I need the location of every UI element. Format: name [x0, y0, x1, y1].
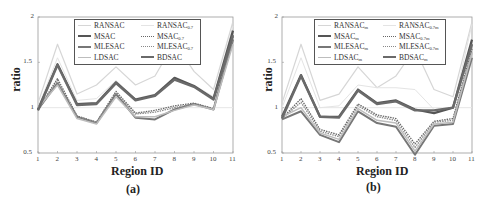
legend-swatch [318, 57, 331, 58]
x-tick-label: 11 [229, 155, 236, 163]
x-tick-label: 1 [36, 155, 40, 163]
legend-swatch [78, 25, 91, 26]
x-tick-label: 3 [318, 155, 322, 163]
x-tick-label: 4 [95, 155, 99, 163]
y-tick-label: 1.5 [267, 57, 276, 65]
legend-swatch [318, 35, 331, 37]
y-tick-label: 0.5 [267, 148, 276, 156]
legend-label: MSAC0.7m [399, 32, 429, 41]
legend-item: MLESAC0.7 [141, 42, 193, 51]
panel-caption: (b) [366, 180, 381, 195]
x-axis-label: Region ID [111, 164, 163, 179]
legend-item: RANSAC [78, 21, 124, 30]
x-tick-label: 6 [134, 155, 138, 163]
legend-swatch [141, 25, 154, 26]
legend-swatch [78, 46, 91, 48]
legend-label: MLESAC0.7m [399, 42, 439, 51]
legend-label: MSACm [334, 32, 359, 41]
legend-label: MLESAC [94, 42, 124, 51]
legend-item: RANSAC0.7m [383, 21, 439, 30]
legend-item: BDSACm [383, 53, 428, 62]
legend-label: LDSACm [334, 53, 362, 62]
x-tick-label: 8 [413, 155, 417, 163]
legend-item: BDSAC [141, 53, 182, 62]
chart-panel-b: ratio Region ID (b) RANSACmRANSAC0.7mMSA… [246, 0, 492, 200]
x-tick-label: 9 [432, 155, 436, 163]
x-tick-label: 2 [299, 155, 303, 163]
legend-item: LDSACm [318, 53, 362, 62]
legend-swatch [141, 46, 154, 47]
y-tick-label: 0.5 [23, 148, 32, 156]
legend-swatch [318, 25, 331, 26]
legend-item: LDSAC [78, 53, 119, 62]
legend-item: MLESAC0.7m [383, 42, 439, 51]
x-tick-label: 3 [75, 155, 79, 163]
panel-caption: (a) [126, 182, 140, 197]
legend-swatch [383, 46, 396, 47]
y-axis-label: ratio [261, 67, 276, 92]
legend: RANSACRANSAC0.7MSACMSAC0.7MLESACMLESAC0.… [74, 19, 201, 65]
legend-item: RANSAC0.7 [141, 21, 193, 30]
series-line [282, 51, 472, 147]
legend: RANSACmRANSAC0.7mMSACmMSAC0.7mMLESACmMLE… [314, 19, 446, 65]
legend-label: RANSACm [334, 21, 368, 30]
legend-item: MLESAC [78, 42, 124, 51]
legend-item: MLESACm [318, 42, 368, 51]
legend-swatch [141, 36, 154, 37]
x-tick-label: 7 [394, 155, 398, 163]
legend-swatch [318, 46, 331, 48]
legend-item: MSAC0.7m [383, 32, 429, 41]
x-tick-label: 4 [337, 155, 341, 163]
x-tick-label: 9 [192, 155, 196, 163]
y-tick-label: 1 [274, 103, 278, 111]
legend-label: RANSAC [94, 21, 124, 30]
legend-label: MSAC [94, 32, 115, 41]
y-tick-label: 1 [30, 103, 34, 111]
x-axis-label: Region ID [356, 164, 408, 179]
x-tick-label: 5 [114, 155, 118, 163]
legend-swatch [78, 57, 91, 58]
x-tick-label: 10 [449, 155, 456, 163]
y-axis-label: ratio [9, 67, 24, 92]
y-tick-label: 2 [30, 12, 34, 20]
x-tick-label: 6 [375, 155, 379, 163]
legend-label: BDSACm [399, 53, 428, 62]
legend-item: MSAC [78, 32, 115, 41]
chart-panel-a: ratio Region ID (a) RANSACRANSAC0.7MSACM… [0, 0, 246, 200]
legend-swatch [383, 25, 396, 26]
legend-swatch [78, 35, 91, 37]
x-tick-label: 5 [356, 155, 360, 163]
legend-label: RANSAC0.7 [157, 21, 193, 30]
legend-item: MSAC0.7 [141, 32, 184, 41]
x-tick-label: 2 [56, 155, 60, 163]
legend-label: RANSAC0.7m [399, 21, 439, 30]
x-tick-label: 8 [173, 155, 177, 163]
legend-item: RANSACm [318, 21, 368, 30]
x-tick-label: 7 [153, 155, 157, 163]
legend-swatch [383, 36, 396, 37]
legend-swatch [383, 56, 396, 58]
legend-label: MLESAC0.7 [157, 42, 193, 51]
legend-label: MSAC0.7 [157, 32, 184, 41]
legend-item: MSACm [318, 32, 359, 41]
legend-label: LDSAC [94, 53, 119, 62]
legend-label: BDSAC [157, 53, 182, 62]
x-tick-label: 11 [468, 155, 475, 163]
y-tick-label: 2 [274, 12, 278, 20]
y-tick-label: 1.5 [23, 57, 32, 65]
legend-label: MLESACm [334, 42, 368, 51]
x-tick-label: 1 [280, 155, 284, 163]
legend-swatch [141, 56, 154, 58]
x-tick-label: 10 [210, 155, 217, 163]
